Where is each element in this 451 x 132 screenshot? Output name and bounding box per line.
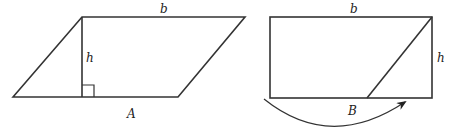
parallelogram-outline [13, 17, 245, 97]
label-b-left: b [160, 2, 168, 16]
right-angle-marker [82, 85, 94, 97]
label-h-left: h [86, 51, 94, 65]
label-h-right: h [437, 51, 445, 65]
rectangle-figure: b h B [264, 2, 445, 126]
geometry-diagram: b h A b h B [0, 0, 451, 132]
curved-arrow [264, 99, 405, 126]
rectangle-outline [270, 17, 432, 98]
label-b-triangle: B [347, 104, 357, 118]
parallelogram-figure: b h A [13, 2, 245, 121]
diagonal-line [367, 17, 432, 98]
label-b-right: b [350, 2, 358, 16]
label-a: A [126, 107, 136, 121]
